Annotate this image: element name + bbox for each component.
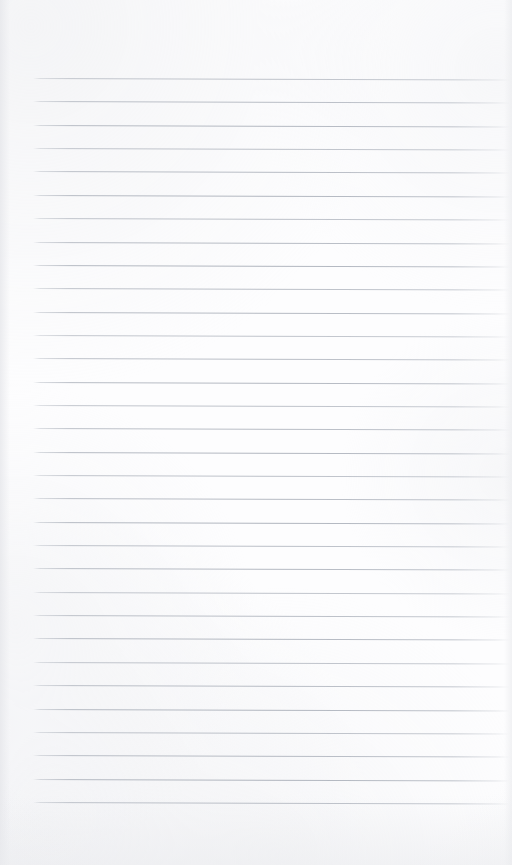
writing-area[interactable]: [33, 60, 510, 820]
scanned-page: [0, 0, 512, 865]
